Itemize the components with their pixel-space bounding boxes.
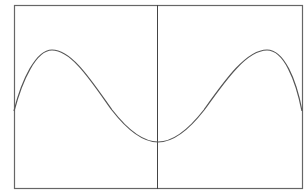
plot-frame bbox=[15, 6, 303, 189]
chart-canvas bbox=[0, 0, 304, 191]
